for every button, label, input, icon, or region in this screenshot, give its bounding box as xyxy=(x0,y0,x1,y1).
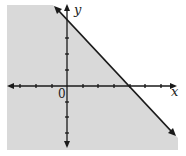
shaded-region xyxy=(7,5,178,150)
y-axis-label: y xyxy=(73,2,82,17)
origin-label: 0 xyxy=(58,87,66,101)
inequality-graph: y x 0 xyxy=(0,0,186,156)
x-axis-label: x xyxy=(171,84,179,99)
